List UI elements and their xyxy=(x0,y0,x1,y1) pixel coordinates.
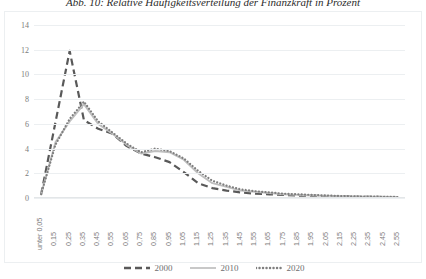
y-axis-tick-label: 4 xyxy=(25,144,29,153)
x-axis-tick-label: 2,15 xyxy=(335,232,344,246)
x-axis-tick-label: 0,25 xyxy=(64,232,73,246)
x-axis-tick-label: 1,05 xyxy=(178,232,187,246)
x-axis-tick-label: 2,25 xyxy=(349,232,358,246)
x-axis-tick-label: 1,45 xyxy=(235,232,244,246)
y-axis-tick-label: 2 xyxy=(25,169,29,178)
plot-area: 02468101214 xyxy=(34,25,405,198)
y-axis-tick-label: 8 xyxy=(25,95,29,104)
legend-swatch-dashed-icon xyxy=(124,263,150,273)
x-axis-tick-label: 2,05 xyxy=(321,232,330,246)
x-axis-tick-label: 0,85 xyxy=(149,232,158,246)
x-axis-tick-label: 1,65 xyxy=(263,232,272,246)
gridline xyxy=(34,50,405,51)
gridline xyxy=(34,173,405,174)
x-axis-tick-label: 1,75 xyxy=(278,232,287,246)
y-axis-tick-label: 10 xyxy=(21,70,29,79)
x-axis-tick-label: 0,45 xyxy=(92,232,101,246)
legend-item-2010[interactable]: 2010 xyxy=(190,263,239,273)
x-axis-tick-label: 2,35 xyxy=(363,232,372,246)
legend-label: 2020 xyxy=(287,263,305,273)
x-axis-tick-label: 1,55 xyxy=(249,232,258,246)
y-axis-tick-label: 0 xyxy=(25,194,29,203)
x-axis-tick-label: 1,25 xyxy=(206,232,215,246)
legend-label: 2010 xyxy=(221,263,239,273)
x-axis-tick-label: 0,95 xyxy=(164,232,173,246)
legend-swatch-dotted-icon xyxy=(256,263,282,273)
chart-legend: 200020102020 xyxy=(5,260,423,276)
y-axis-tick-label: 12 xyxy=(21,45,29,54)
figure-title: Abb. 10: Relative Häufigkeitsverteilung … xyxy=(0,0,426,8)
legend-label: 2000 xyxy=(155,263,173,273)
x-axis-tick-label: 0,15 xyxy=(49,232,58,246)
legend-item-2000[interactable]: 2000 xyxy=(124,263,173,273)
x-axis-tick-label: 2,55 xyxy=(392,232,401,246)
gridline xyxy=(34,74,405,75)
gridline xyxy=(34,124,405,125)
y-axis-tick-label: 14 xyxy=(21,21,29,30)
figure-container: Abb. 10: Relative Häufigkeitsverteilung … xyxy=(0,0,426,279)
chart-frame: 02468101214 unter 0,050,150,250,350,450,… xyxy=(4,11,422,263)
gridline xyxy=(34,99,405,100)
legend-item-2020[interactable]: 2020 xyxy=(256,263,305,273)
legend-swatch-solid-icon xyxy=(190,263,216,273)
x-axis-tick-label: unter 0,05 xyxy=(35,218,44,250)
gridline xyxy=(34,149,405,150)
x-axis-tick-label: 0,35 xyxy=(78,232,87,246)
x-axis-tick-label: 0,65 xyxy=(121,232,130,246)
x-axis-tick-label: 1,35 xyxy=(221,232,230,246)
x-axis-tick-label: 1,85 xyxy=(292,232,301,246)
series-lines xyxy=(34,25,405,198)
x-axis-tick-label: 0,55 xyxy=(106,232,115,246)
x-axis-tick-label: 1,95 xyxy=(306,232,315,246)
x-axis-tick-label: 1,15 xyxy=(192,232,201,246)
x-axis-tick-label: 0,75 xyxy=(135,232,144,246)
x-axis-tick-labels: unter 0,050,150,250,350,450,550,650,750,… xyxy=(34,198,405,260)
x-axis-tick-label: 2,45 xyxy=(378,232,387,246)
gridline xyxy=(34,25,405,26)
y-axis-tick-label: 6 xyxy=(25,119,29,128)
